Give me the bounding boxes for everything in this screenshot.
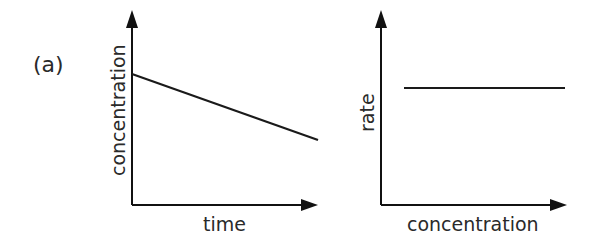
x-axis-label: concentration bbox=[407, 213, 539, 235]
y-axis-label: rate bbox=[356, 93, 378, 132]
y-axis-arrow-icon bbox=[126, 10, 138, 28]
data-line bbox=[132, 74, 318, 140]
x-axis-arrow-icon bbox=[550, 199, 567, 211]
y-axis-label: concentration bbox=[107, 44, 129, 176]
panel-label: (a) bbox=[33, 52, 64, 77]
x-axis-arrow-icon bbox=[301, 199, 318, 211]
concentration-vs-time-chart: time concentration bbox=[107, 10, 318, 235]
y-axis-arrow-icon bbox=[375, 10, 387, 28]
x-axis-label: time bbox=[203, 213, 246, 235]
figure: (a) time concentration concentration rat… bbox=[0, 0, 596, 243]
rate-vs-concentration-chart: concentration rate bbox=[356, 10, 567, 235]
